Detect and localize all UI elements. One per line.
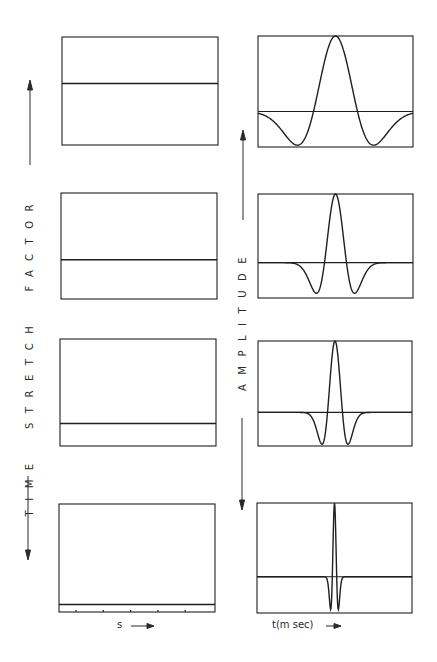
left-up-arrow-icon (28, 80, 33, 165)
wavelet-panel-3 (258, 341, 412, 446)
stretch-panel-2 (61, 193, 217, 299)
wavelet-panel-2 (258, 194, 413, 298)
left-panels (59, 37, 218, 612)
t-axis-label: t(m sec) (272, 619, 314, 630)
right-down-arrow-icon (240, 418, 245, 510)
time-stretch-factor-label: TIME STRETCH FACTOR (24, 195, 35, 516)
amplitude-label: AMPLITUDE (237, 248, 248, 391)
wavelet-curve (257, 503, 412, 610)
wavelet-panel-1 (258, 36, 413, 147)
figure-canvas (0, 0, 437, 662)
t-axis-arrow-icon (326, 624, 341, 629)
wavelet-panel-4 (257, 503, 412, 613)
stretch-panel-1 (62, 37, 218, 145)
stretch-panel-4 (59, 504, 215, 612)
s-axis-label: s (117, 619, 122, 630)
wavelet-curve (258, 36, 413, 145)
wavelet-curve (258, 341, 412, 444)
stretch-panel-3 (60, 339, 216, 446)
wavelet-curve (258, 194, 413, 293)
right-panels (257, 36, 413, 613)
right-up-arrow-icon (241, 130, 246, 220)
s-axis-arrow-icon (131, 624, 154, 629)
